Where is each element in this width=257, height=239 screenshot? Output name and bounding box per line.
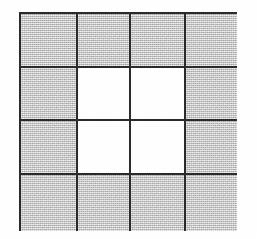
- page-canvas: [0, 0, 257, 239]
- grid-cell-r1c3[interactable]: [131, 14, 184, 66]
- grid-cell-r3c3[interactable]: [131, 121, 184, 173]
- grid-cell-r2c4[interactable]: [186, 68, 237, 119]
- grid-cell-r4c4[interactable]: [186, 175, 237, 231]
- grid-cell-r3c1[interactable]: [21, 121, 76, 173]
- grid-cell-r2c3[interactable]: [131, 68, 184, 119]
- grid-cell-r2c1[interactable]: [21, 68, 76, 119]
- grid-cell-r4c1[interactable]: [21, 175, 76, 231]
- grid-cell-r1c1[interactable]: [21, 14, 76, 66]
- grid-cell-r1c2[interactable]: [78, 14, 129, 66]
- grid-cell-r2c2[interactable]: [78, 68, 129, 119]
- grid-cell-r4c2[interactable]: [78, 175, 129, 231]
- grid-cell-r3c2[interactable]: [78, 121, 129, 173]
- grid-figure: [19, 12, 237, 231]
- grid-cell-r4c3[interactable]: [131, 175, 184, 231]
- grid-cell-r1c4[interactable]: [186, 14, 237, 66]
- grid-cell-r3c4[interactable]: [186, 121, 237, 173]
